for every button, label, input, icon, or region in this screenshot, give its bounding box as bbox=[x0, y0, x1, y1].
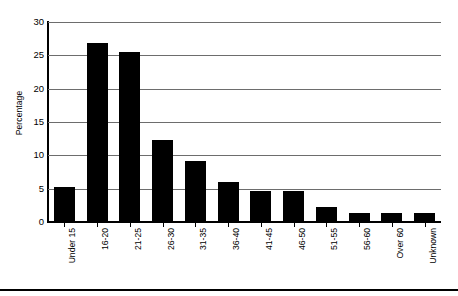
x-axis-tick-label: 36-40 bbox=[232, 228, 241, 250]
bar-slot bbox=[179, 22, 212, 222]
bar-slot bbox=[146, 22, 179, 222]
bar[interactable] bbox=[414, 213, 435, 222]
x-axis-tick-label: 41-45 bbox=[265, 228, 274, 250]
x-tick-mark bbox=[97, 222, 98, 227]
x-label-slot: 46-50 bbox=[277, 228, 310, 290]
x-tick-mark bbox=[130, 222, 131, 227]
y-tick-label: 5 bbox=[26, 184, 44, 194]
x-tick-mark bbox=[392, 222, 393, 227]
y-tick-label: 25 bbox=[26, 50, 44, 60]
x-axis-tick-label: 31-35 bbox=[199, 228, 208, 250]
x-tick-mark bbox=[261, 222, 262, 227]
x-axis-tick-label: 51-55 bbox=[330, 228, 339, 250]
x-label-slot: 21-25 bbox=[114, 228, 147, 290]
bar-slot bbox=[277, 22, 310, 222]
bottom-rule bbox=[0, 289, 458, 291]
x-tick-mark bbox=[359, 222, 360, 227]
bar-slot bbox=[376, 22, 409, 222]
x-tick-mark bbox=[64, 222, 65, 227]
x-axis-tick-label: 46-50 bbox=[298, 228, 307, 250]
x-axis-tick-label: 16-20 bbox=[101, 228, 110, 250]
bar[interactable] bbox=[316, 207, 337, 222]
bar-slot bbox=[343, 22, 376, 222]
bar[interactable] bbox=[283, 191, 304, 222]
y-tick-label: 15 bbox=[26, 117, 44, 127]
bar[interactable] bbox=[87, 43, 108, 222]
y-tick-label: 0 bbox=[26, 217, 44, 227]
x-axis-tick-labels: Under 1516-2021-2526-3031-3536-4041-4546… bbox=[48, 228, 441, 290]
bar[interactable] bbox=[54, 187, 75, 222]
x-label-slot: 56-60 bbox=[343, 228, 376, 290]
bar-slot bbox=[408, 22, 441, 222]
x-axis-tick-label: Unknown bbox=[429, 228, 438, 264]
x-tick-mark bbox=[163, 222, 164, 227]
plot-area bbox=[48, 22, 441, 222]
x-axis-tick-label: 26-30 bbox=[167, 228, 176, 250]
bar-slot bbox=[310, 22, 343, 222]
bar-slot bbox=[212, 22, 245, 222]
y-tick-label: 20 bbox=[26, 84, 44, 94]
x-label-slot: Over 60 bbox=[376, 228, 409, 290]
x-tick-mark bbox=[294, 222, 295, 227]
bar-series bbox=[48, 22, 441, 222]
x-tick-mark bbox=[425, 222, 426, 227]
y-axis-tick-labels: 30 25 20 15 10 5 0 bbox=[22, 0, 44, 296]
bar[interactable] bbox=[381, 213, 402, 222]
x-label-slot: 51-55 bbox=[310, 228, 343, 290]
x-tick-mark bbox=[228, 222, 229, 227]
x-tick-mark bbox=[195, 222, 196, 227]
x-label-slot: 26-30 bbox=[146, 228, 179, 290]
x-label-slot: Unknown bbox=[408, 228, 441, 290]
bar[interactable] bbox=[349, 213, 370, 222]
x-axis-tick-label: 56-60 bbox=[363, 228, 372, 250]
bar[interactable] bbox=[250, 191, 271, 222]
bar[interactable] bbox=[218, 182, 239, 222]
bar-slot bbox=[48, 22, 81, 222]
x-label-slot: Under 15 bbox=[48, 228, 81, 290]
x-tick-mark bbox=[326, 222, 327, 227]
x-axis-tick-label: 21-25 bbox=[134, 228, 143, 250]
x-label-slot: 16-20 bbox=[81, 228, 114, 290]
x-label-slot: 41-45 bbox=[245, 228, 278, 290]
y-tick-label: 30 bbox=[26, 17, 44, 27]
bar[interactable] bbox=[152, 140, 173, 222]
x-axis-tick-label: Under 15 bbox=[68, 228, 77, 263]
x-label-slot: 31-35 bbox=[179, 228, 212, 290]
y-tick-label: 10 bbox=[26, 150, 44, 160]
bar-slot bbox=[114, 22, 147, 222]
bar[interactable] bbox=[185, 161, 206, 222]
bar-chart-figure: Percentage 30 25 20 15 10 5 0 Under 1516… bbox=[0, 0, 458, 296]
bar-slot bbox=[81, 22, 114, 222]
bar[interactable] bbox=[119, 52, 140, 222]
x-label-slot: 36-40 bbox=[212, 228, 245, 290]
bar-slot bbox=[245, 22, 278, 222]
x-axis-tick-label: Over 60 bbox=[396, 228, 405, 259]
